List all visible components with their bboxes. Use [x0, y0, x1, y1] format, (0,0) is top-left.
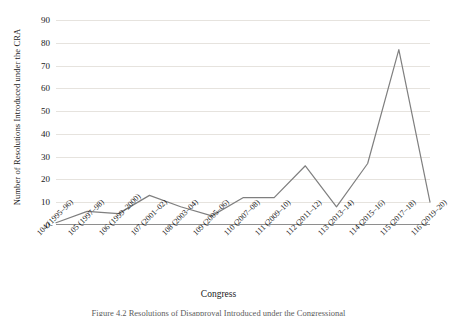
y-tick-label: 50 [41, 107, 50, 116]
y-tick-label: 90 [41, 16, 50, 25]
line-series [56, 20, 430, 225]
x-axis-title: Congress [0, 289, 437, 299]
y-tick-label: 10 [41, 198, 50, 207]
y-tick-label: 80 [41, 38, 50, 47]
y-axis-title: Number of Resolutions Introduced under t… [12, 5, 22, 230]
y-axis-tick-labels: 0102030405060708090 [26, 0, 50, 240]
x-axis-tick-labels: 104 (1995–96)105 (1997–98)106 (1999–2000… [0, 225, 437, 287]
y-tick-label: 70 [41, 61, 50, 70]
figure-caption: Figure 4.2 Resolutions of Disapproval In… [0, 308, 437, 316]
y-tick-label: 20 [41, 175, 50, 184]
y-tick-label: 60 [41, 84, 50, 93]
plot-area [56, 20, 430, 225]
y-tick-label: 40 [41, 129, 50, 138]
y-tick-label: 30 [41, 152, 50, 161]
